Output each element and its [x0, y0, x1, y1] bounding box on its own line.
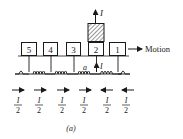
armature-winding-coils	[15, 71, 130, 74]
current-fractions: I 2 I 2 I 2 I 2 I 2 I 2	[14, 96, 130, 115]
fraction-denominator: 2	[60, 106, 64, 115]
fraction-numerator: I	[60, 96, 64, 105]
fraction-denominator: 2	[37, 106, 41, 115]
segment-1-label: 1	[115, 45, 120, 55]
fraction-numerator: I	[124, 96, 128, 105]
brush-hatched-block	[88, 24, 104, 42]
segment-4-label: 4	[48, 45, 53, 55]
segment-5-label: 5	[27, 45, 32, 55]
feed-point-label: a	[83, 63, 87, 72]
segment-2-label: 2	[94, 45, 99, 55]
top-current-label: I	[99, 8, 104, 18]
feed-current-label: I	[99, 62, 103, 71]
fraction-numerator: I	[105, 96, 109, 105]
motion-label: Motion	[145, 44, 171, 54]
fraction-denominator: 2	[124, 106, 128, 115]
fraction-denominator: 2	[16, 106, 20, 115]
fraction-numerator: I	[16, 96, 20, 105]
fraction-denominator: 2	[82, 106, 86, 115]
fraction-denominator: 2	[105, 106, 109, 115]
fraction-numerator: I	[37, 96, 41, 105]
commutator-winding-diagram: I 5 4 3 2 1 Motion I a	[0, 0, 183, 139]
figure-caption: (a)	[66, 124, 76, 133]
fraction-numerator: I	[82, 96, 86, 105]
segment-3-label: 3	[71, 45, 76, 55]
segment-leads	[29, 56, 118, 72]
